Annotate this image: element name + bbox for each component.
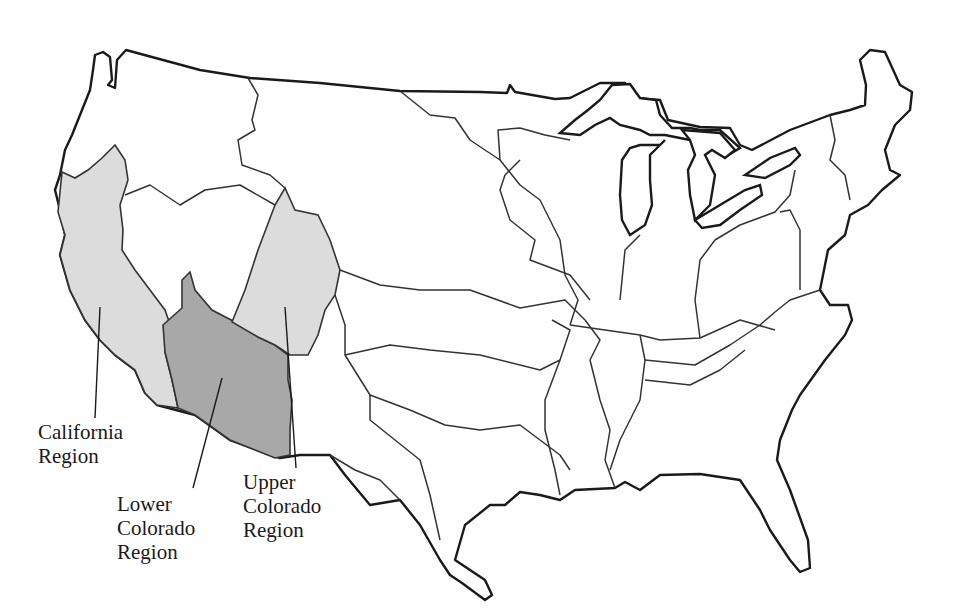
label-line: Upper	[243, 470, 321, 494]
label-line: Colorado	[117, 516, 195, 540]
label-line: Region	[117, 540, 195, 564]
label-line: Colorado	[243, 494, 321, 518]
label-line: Region	[243, 518, 321, 542]
lower-colorado-region-label: Lower Colorado Region	[117, 492, 195, 564]
label-line: California	[38, 420, 123, 444]
label-line: Region	[38, 444, 123, 468]
upper-colorado-region-label: Upper Colorado Region	[243, 470, 321, 542]
label-line: Lower	[117, 492, 195, 516]
california-region-label: California Region	[38, 420, 123, 468]
